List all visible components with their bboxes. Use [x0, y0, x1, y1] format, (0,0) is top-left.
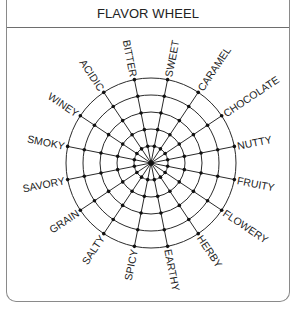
wheel-center-dot [149, 161, 154, 166]
intersection-dot [143, 128, 147, 132]
intersection-dot [233, 178, 237, 182]
intersection-dot [121, 180, 125, 184]
intersection-dot [196, 91, 200, 95]
intersection-dot [93, 199, 97, 203]
intersection-dot [99, 151, 103, 155]
intersection-dot [233, 145, 237, 149]
intersection-dot [116, 155, 120, 159]
intersection-dot [166, 165, 170, 169]
intersection-dot [111, 218, 115, 222]
intersection-dot [139, 211, 143, 215]
wheel-intersection-dots [66, 78, 236, 248]
intersection-dot [206, 199, 210, 203]
intersection-dot [162, 228, 166, 232]
flavor-label-salty: SALTY [79, 233, 107, 267]
intersection-dot [140, 147, 144, 151]
intersection-dot [162, 95, 166, 99]
intersection-dot [178, 204, 182, 208]
intersection-dot [79, 114, 83, 118]
intersection-dot [153, 145, 157, 149]
intersection-dot [93, 123, 97, 127]
intersection-dot [79, 208, 83, 212]
intersection-dot [166, 245, 170, 249]
flavor-label-chocolate: CHOCOLATE [221, 73, 281, 119]
intersection-dot [102, 91, 106, 95]
flavor-label-nutty: NUTTY [236, 133, 273, 152]
intersection-dot [66, 178, 70, 182]
flavor-label-sweet: SWEET [162, 38, 181, 78]
flavor-label-winey: WINEY [46, 90, 81, 119]
intersection-dot [156, 128, 160, 132]
intersection-dot [146, 145, 150, 149]
intersection-dot [183, 155, 187, 159]
flavor-label-earthy: EARTHY [162, 248, 182, 292]
flavor-label-savory: SAVORY [22, 174, 66, 194]
intersection-dot [206, 123, 210, 127]
intersection-dot [166, 78, 170, 82]
intersection-dot [192, 133, 196, 137]
intersection-dot [107, 190, 111, 194]
intersection-dot [143, 195, 147, 199]
intersection-dot [130, 189, 134, 193]
intersection-dot [107, 133, 111, 137]
intersection-dot [163, 171, 167, 175]
intersection-dot [133, 245, 137, 249]
flavor-label-caramel: CARAMEL [195, 44, 233, 93]
intersection-dot [220, 114, 224, 118]
intersection-dot [199, 151, 203, 155]
intersection-dot [168, 189, 172, 193]
intersection-dot [183, 168, 187, 172]
intersection-dot [136, 228, 140, 232]
intersection-dot [116, 168, 120, 172]
intersection-dot [196, 232, 200, 236]
intersection-dot [199, 171, 203, 175]
intersection-dot [133, 158, 137, 162]
intersection-dot [121, 119, 125, 123]
flavor-label-fruity: FRUITY [236, 174, 276, 193]
intersection-dot [139, 111, 143, 115]
intersection-dot [177, 180, 181, 184]
intersection-dot [159, 111, 163, 115]
intersection-dot [168, 133, 172, 137]
intersection-dot [135, 152, 139, 156]
flavor-label-spicy: SPICY [122, 248, 140, 281]
intersection-dot [220, 208, 224, 212]
flavor-label-bitter: BITTER [121, 39, 140, 78]
intersection-dot [133, 165, 137, 169]
flavor-label-herby: HERBY [195, 233, 225, 270]
intersection-dot [163, 152, 167, 156]
intersection-dot [83, 148, 87, 152]
intersection-dot [121, 142, 125, 146]
intersection-dot [159, 147, 163, 151]
intersection-dot [177, 142, 181, 146]
intersection-dot [216, 148, 220, 152]
intersection-dot [102, 232, 106, 236]
flavor-wheel-diagram: BITTERSWEETCARAMELCHOCOLATENUTTYFRUITYFL… [0, 0, 295, 311]
intersection-dot [136, 95, 140, 99]
flavor-label-flowery: FLOWERY [221, 207, 271, 246]
intersection-dot [121, 204, 125, 208]
flavor-label-acidic: ACIDIC [77, 57, 107, 94]
intersection-dot [216, 174, 220, 178]
intersection-dot [140, 175, 144, 179]
intersection-dot [159, 211, 163, 215]
intersection-dot [166, 158, 170, 162]
flavor-label-smoky: SMOKY [26, 133, 66, 152]
intersection-dot [187, 218, 191, 222]
intersection-dot [153, 178, 157, 182]
intersection-dot [135, 171, 139, 175]
intersection-dot [111, 105, 115, 109]
intersection-dot [146, 178, 150, 182]
intersection-dot [159, 175, 163, 179]
intersection-dot [178, 119, 182, 123]
intersection-dot [156, 195, 160, 199]
intersection-dot [66, 145, 70, 149]
intersection-dot [99, 171, 103, 175]
intersection-dot [187, 105, 191, 109]
flavor-label-grain: GRAIN [47, 207, 81, 235]
intersection-dot [83, 174, 87, 178]
intersection-dot [192, 190, 196, 194]
intersection-dot [133, 78, 137, 82]
intersection-dot [130, 133, 134, 137]
